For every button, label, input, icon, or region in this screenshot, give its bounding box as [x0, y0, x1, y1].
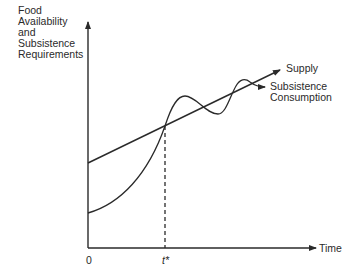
supply-line: [88, 70, 280, 163]
subsistence-label: Subsistence Consumption: [270, 81, 332, 103]
y-label-line: Requirements: [18, 49, 83, 60]
malthusian-diagram: Food Availability and Subsistence Requir…: [0, 0, 355, 271]
origin-label: 0: [86, 255, 92, 266]
supply-label: Supply: [286, 63, 318, 74]
subsistence-label-line: Consumption: [270, 92, 332, 103]
subsistence-curve: [88, 80, 265, 213]
t-star-label: t*: [162, 255, 169, 266]
y-axis-label: Food Availability and Subsistence Requir…: [18, 5, 83, 60]
x-axis-label: Time: [319, 243, 342, 254]
